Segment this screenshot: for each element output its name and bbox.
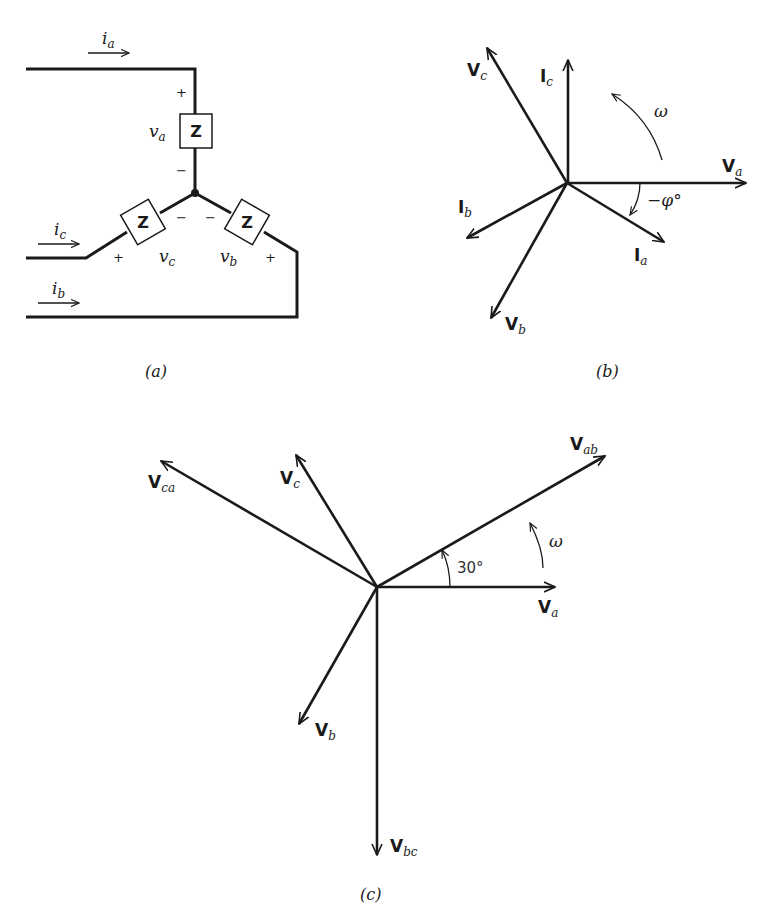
polarity-plus-b: + (265, 250, 276, 265)
angle-label-30: 30° (457, 559, 484, 577)
label-ib-b: Ib (458, 197, 472, 220)
polarity-plus-a: + (176, 85, 187, 100)
label-vc-c: Vc (280, 468, 300, 491)
phasor-vab (377, 456, 605, 587)
impedance-label-b: Z (241, 213, 253, 232)
label-ia-b: Ia (634, 245, 647, 268)
current-label-ia: ia (102, 28, 115, 51)
current-label-ic: ic (54, 219, 66, 242)
label-vb-b: Vb (505, 314, 526, 337)
impedance-label-a: Z (190, 122, 202, 141)
voltage-label-vc: vc (159, 246, 176, 269)
polarity-minus-b: − (205, 210, 216, 225)
phasor-vb-c (299, 587, 377, 724)
panel-a-wye-circuit: Z Z Z ia ic ib va + − vc + − vb + − (26, 28, 297, 381)
voltage-label-va: va (149, 121, 166, 144)
three-phase-diagram: Z Z Z ia ic ib va + − vc + − vb + − (0, 0, 770, 923)
label-vca: Vca (148, 472, 175, 495)
rotation-label-c: ω (549, 531, 563, 551)
label-vbc: Vbc (390, 836, 418, 859)
polarity-minus-a: − (176, 163, 187, 178)
label-va-c: Va (538, 597, 558, 620)
wire-phase-c (26, 232, 127, 258)
panel-c-line-voltage-phasors: 30° ω Vab Va Vc Vca Vb Vbc (c) (148, 434, 605, 904)
caption-b: (b) (596, 362, 619, 381)
wire-phase-a (26, 69, 195, 114)
phasor-vca (161, 461, 377, 587)
current-label-ib: ib (52, 278, 65, 301)
polarity-minus-c: − (176, 210, 187, 225)
voltage-label-vb: vb (220, 246, 237, 269)
label-vc-b: Vc (467, 60, 487, 83)
rotation-arc-icon-c (530, 523, 543, 568)
phasor-vc-c (296, 455, 377, 587)
label-va-b: Va (722, 156, 742, 179)
label-ic-b: Ic (540, 66, 553, 89)
angle-arc-30 (442, 550, 450, 587)
impedance-label-c: Z (137, 213, 149, 232)
caption-a: (a) (145, 362, 167, 381)
rotation-label-b: ω (654, 101, 668, 121)
caption-c: (c) (360, 885, 381, 904)
phasor-vc (487, 48, 567, 183)
label-vab: Vab (570, 434, 598, 457)
polarity-plus-c: + (113, 250, 124, 265)
panel-b-phasor-diagram: ω −φ° Va Vb Vc Ia Ib Ic (b) (458, 48, 746, 381)
wire-phase-b (26, 232, 297, 317)
label-vb-c: Vb (315, 720, 336, 743)
angle-arc-phi (630, 183, 640, 215)
angle-label-phi: −φ° (647, 190, 682, 210)
